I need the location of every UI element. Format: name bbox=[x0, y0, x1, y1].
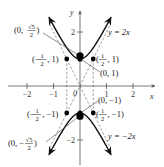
box-corner-point bbox=[91, 57, 96, 62]
label-suffix: , 1) bbox=[47, 54, 59, 64]
origin-label: 0 bbox=[73, 89, 77, 98]
label-denominator: 2 bbox=[41, 60, 44, 67]
upper-branch-curve bbox=[80, 17, 111, 59]
label-numerator: 1 bbox=[101, 52, 104, 59]
label-numerator: √5 bbox=[26, 136, 33, 143]
x-tick-label: −2 bbox=[23, 90, 32, 99]
vertex-label-upper: (0, 1) bbox=[100, 68, 119, 78]
focus-label-upper: (0, √52) bbox=[14, 23, 39, 38]
asymptote-label-negative: y = −2x bbox=[107, 131, 136, 141]
label-suffix: , −1) bbox=[108, 109, 124, 119]
label-numerator: 1 bbox=[41, 52, 44, 59]
asymptote-label-positive: y = 2x bbox=[107, 27, 130, 37]
label-denominator: 2 bbox=[36, 115, 39, 122]
box-point-label: (12, −1) bbox=[96, 107, 124, 122]
label-prefix: (0, − bbox=[8, 138, 24, 148]
label-suffix: , −1) bbox=[42, 109, 58, 119]
box-corner-point bbox=[91, 111, 96, 116]
box-point-label: (−12, 1) bbox=[32, 52, 59, 67]
box-point-label: (−12, −1) bbox=[27, 107, 58, 122]
label-suffix: ) bbox=[34, 138, 37, 148]
x-tick-label: 2 bbox=[131, 90, 135, 99]
label-denominator: 2 bbox=[30, 31, 33, 38]
y-axis-label: y bbox=[69, 8, 74, 17]
vertex-label-lower: (0, −1) bbox=[98, 95, 121, 105]
focus-label-lower: (0, −√52) bbox=[8, 136, 37, 151]
label-prefix: (0, bbox=[14, 25, 23, 35]
label-numerator: √5 bbox=[28, 23, 35, 30]
y-tick-label: −2 bbox=[66, 136, 75, 145]
label-denominator: 2 bbox=[101, 60, 104, 67]
label-denominator: 2 bbox=[27, 144, 30, 151]
label-prefix: (− bbox=[27, 109, 35, 119]
label-numerator: 1 bbox=[36, 107, 39, 114]
x-axis-label: x bbox=[149, 92, 154, 101]
lower-branch-curve bbox=[80, 113, 111, 155]
box-corner-point bbox=[64, 57, 69, 62]
x-tick-label: −1 bbox=[49, 90, 58, 99]
y-tick-label: 2 bbox=[71, 28, 75, 37]
label-prefix: ( bbox=[96, 109, 99, 119]
upper-branch-curve bbox=[49, 17, 80, 59]
label-suffix: , 1) bbox=[108, 54, 120, 64]
focus-point bbox=[76, 113, 83, 120]
label-prefix: ( bbox=[96, 54, 99, 64]
box-corner-point bbox=[64, 111, 69, 116]
label-prefix: (− bbox=[32, 54, 40, 64]
hyperbola-figure: x y 0 −2−1122−2 y = 2x y = −2x (0, √52)(… bbox=[0, 0, 164, 167]
label-numerator: 1 bbox=[101, 107, 104, 114]
label-suffix: ) bbox=[36, 25, 39, 35]
tick-marks: −2−1122−2 bbox=[23, 28, 135, 145]
box-point-label: (12, 1) bbox=[96, 52, 119, 67]
label-denominator: 2 bbox=[101, 115, 104, 122]
focus-point bbox=[76, 52, 83, 59]
